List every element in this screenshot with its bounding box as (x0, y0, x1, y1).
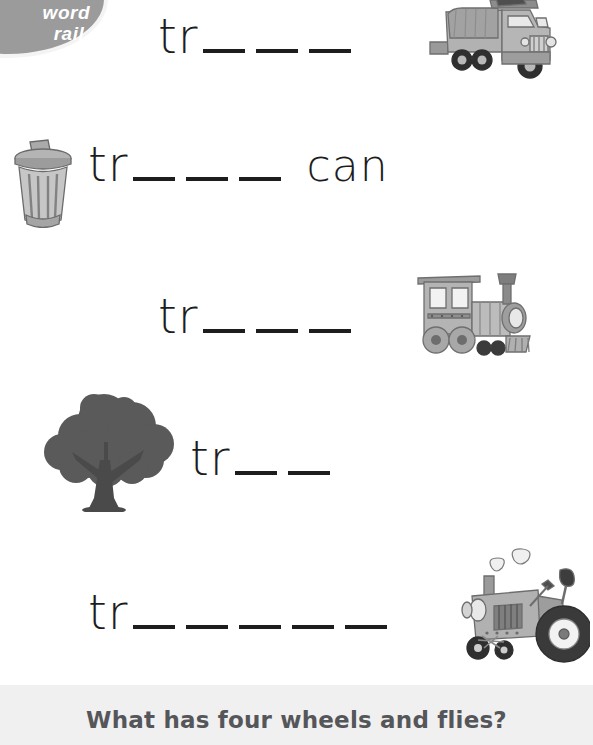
blank-line[interactable] (235, 471, 277, 475)
garbage-truck-image (418, 0, 563, 86)
blank-line[interactable] (203, 49, 245, 53)
blank-line[interactable] (133, 625, 175, 629)
word-prefix: tr (88, 140, 129, 188)
word-blank-truck[interactable]: tr (158, 12, 351, 60)
word-prefix: tr (190, 434, 231, 482)
blank-line[interactable] (345, 625, 387, 629)
blank-line[interactable] (133, 177, 175, 181)
worksheet-row-train: tr (0, 250, 593, 380)
word-prefix: tr (158, 12, 199, 60)
word-prefix: tr (158, 292, 199, 340)
tree-image (32, 394, 182, 512)
worksheet-row-tree: tr (0, 382, 593, 512)
train-locomotive-image (410, 264, 535, 362)
tractor-image (442, 544, 590, 672)
blank-line[interactable] (186, 625, 228, 629)
blank-group[interactable] (133, 625, 387, 632)
blank-group[interactable] (203, 329, 351, 336)
blank-line[interactable] (203, 329, 245, 333)
word-suffix: can (307, 144, 389, 188)
blank-line[interactable] (292, 625, 334, 629)
word-blank-tree[interactable]: tr (190, 434, 330, 482)
word-prefix: tr (88, 588, 129, 636)
blank-line[interactable] (186, 177, 228, 181)
blank-line[interactable] (309, 49, 351, 53)
worksheet-row-trash-can: tr can (0, 118, 593, 248)
blank-group[interactable] (133, 177, 281, 184)
riddle-question: What has four wheels and flies? (0, 707, 593, 733)
worksheet-row-tractor: tr (0, 540, 593, 670)
trash-can-image (8, 136, 82, 228)
blank-line[interactable] (256, 329, 298, 333)
blank-line[interactable] (239, 625, 281, 629)
blank-line[interactable] (239, 177, 281, 181)
worksheet-row-truck: tr (0, 0, 593, 122)
blank-group[interactable] (235, 471, 330, 478)
word-blank-tractor[interactable]: tr (88, 588, 387, 636)
word-blank-trash-can[interactable]: tr can (88, 140, 389, 188)
blank-line[interactable] (256, 49, 298, 53)
riddle-banner: What has four wheels and flies? (0, 685, 593, 745)
blank-line[interactable] (309, 329, 351, 333)
blank-group[interactable] (203, 49, 351, 56)
blank-line[interactable] (288, 471, 330, 475)
word-blank-train[interactable]: tr (158, 292, 351, 340)
